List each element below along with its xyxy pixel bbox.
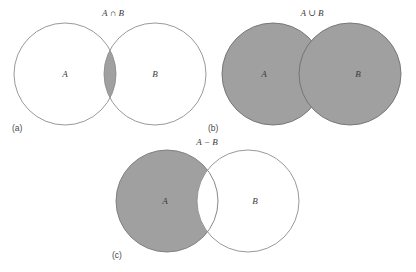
panel-b-circle-b: [299, 23, 401, 125]
panel-b-operation-label: A ∪ B: [300, 8, 324, 18]
panel-a-set-a-label: A: [61, 69, 68, 79]
panel-b-caption: (b): [208, 123, 219, 133]
panel-c: A − B A B (c): [100, 137, 320, 265]
panel-a-operation-label: A ∩ B: [101, 8, 124, 18]
panel-c-set-b-label: B: [252, 196, 258, 206]
panel-a-set-b-label: B: [152, 69, 158, 79]
venn-diagram-figure: A ∩ B A B (a) A ∪ B A B (b) A − B A B (c…: [0, 0, 416, 272]
panel-c-caption: (c): [112, 250, 122, 260]
panel-c-difference-shade: [100, 140, 320, 265]
panel-a-caption: (a): [12, 123, 23, 133]
panel-b-set-b-label: B: [355, 69, 361, 79]
panel-b-set-a-label: A: [260, 69, 267, 79]
panel-c-set-a-label: A: [161, 196, 168, 206]
